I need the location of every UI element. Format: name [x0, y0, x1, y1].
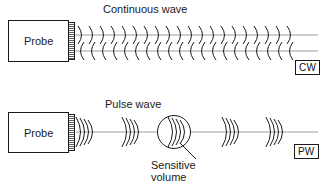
cw-probe-label: Probe [24, 35, 53, 47]
cw-transducer-hatch-icon [69, 23, 75, 60]
cw-mode-badge: CW [295, 60, 320, 75]
figure-canvas [0, 0, 324, 185]
pw-probe-label: Probe [24, 127, 53, 139]
ultrasound-wave-figure: Continuous wave Probe CW Pulse wave Prob… [0, 0, 324, 185]
pulse-wave-heading: Pulse wave [105, 98, 161, 110]
pw-transducer-hatch-icon [69, 115, 75, 151]
continuous-wave-heading: Continuous wave [103, 3, 187, 15]
sensitive-volume-callout-line2: volume [151, 171, 186, 184]
callout-leader-line-icon [180, 143, 196, 159]
pw-mode-badge: PW [294, 144, 319, 159]
